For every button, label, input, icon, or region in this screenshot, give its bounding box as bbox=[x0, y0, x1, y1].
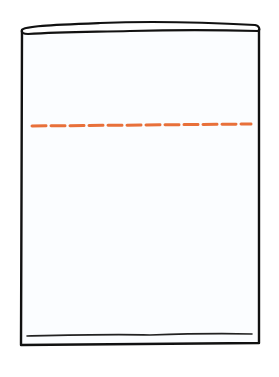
container-diagram bbox=[0, 0, 279, 377]
container-body bbox=[21, 29, 259, 345]
diagram-canvas bbox=[0, 0, 279, 377]
